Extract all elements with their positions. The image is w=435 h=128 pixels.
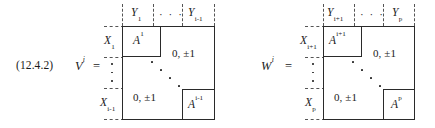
matrix-w-guide-h2 [305, 88, 325, 89]
matrix-v-row-label-dots [110, 63, 114, 82]
matrix-w-col-label-dots: · · · [360, 9, 385, 20]
matrix-w-block-ap-sup: p [398, 94, 402, 102]
matrix-w-guide-h3 [305, 119, 325, 120]
matrix-v-diagonal-dots [150, 60, 186, 90]
matrix-w-row-label-2: Xp [305, 97, 316, 111]
matrix-v-block-a1-base: A [133, 34, 140, 46]
matrix-w-lhs-superscript: i [272, 55, 274, 64]
matrix-w-lhs: Wi [261, 59, 274, 73]
matrix-w-block-ai1-base: A [329, 34, 336, 46]
matrix-w-row-label-2-sub: p [312, 105, 316, 113]
matrix-v-row-label-0-sub: 1 [111, 43, 115, 51]
matrix-v-guide-h3 [104, 119, 124, 120]
matrix-v-col-label-0-base: Y [131, 6, 137, 18]
matrix-w-block-ai1-label: Ai+1 [329, 34, 346, 46]
matrix-w-row-label-0-base: X [300, 34, 307, 46]
matrix-w-block-ai1-sup: i+1 [336, 30, 346, 38]
matrix-w-lhs-symbol: W [261, 59, 271, 73]
matrix-w-row-label-0-sub: i+1 [307, 43, 317, 51]
matrix-w-equals: = [285, 60, 292, 73]
matrix-w-col-label-2-sub: p [399, 15, 403, 23]
matrix-v-row-label-2-sub: i-1 [107, 105, 115, 113]
matrix-v-block-ai1-label: Ai-1 [188, 98, 203, 110]
matrix-v-block-ai1-base: A [188, 98, 195, 110]
matrix-w-block-ap-base: A [391, 98, 398, 110]
matrix-v-lhs-symbol: V [75, 59, 83, 73]
matrix-v-col-label-2-sub: i-1 [195, 15, 203, 23]
matrix-v-offdiag-lower: 0, ±1 [133, 92, 156, 103]
matrix-v-col-label-2-base: Y [188, 6, 194, 18]
matrix-w-col-label-2: Yp [392, 7, 402, 21]
matrix-v-guide-h2 [104, 88, 124, 89]
matrix-w-guide-v0 [323, 4, 324, 26]
matrix-v-row-label-2-base: X [100, 96, 107, 108]
matrix-v-guide-v2 [182, 4, 183, 26]
matrix-w-diagonal-dots [351, 60, 387, 90]
matrix-v-guide-v1 [153, 4, 154, 26]
matrix-w-col-label-0-base: Y [327, 6, 333, 18]
matrix-v-col-label-2: Yi-1 [188, 7, 202, 21]
matrix-w-guide-v3 [414, 4, 415, 26]
matrix-w-col-label-0: Yi+1 [327, 7, 343, 21]
matrix-w-col-label-0-sub: i+1 [334, 15, 344, 23]
matrix-v-guide-h1 [104, 57, 124, 58]
matrix-v-guide-v3 [214, 4, 215, 26]
matrix-w-block-ap-label: Ap [391, 98, 402, 110]
equation-number: (12.4.2) [16, 60, 53, 72]
matrix-w-guide-h0 [305, 26, 325, 27]
matrix-v-lhs: Vi [75, 59, 85, 73]
matrix-v-block-a1-label: A1 [133, 34, 144, 46]
matrix-v-row-label-2: Xi-1 [100, 97, 115, 111]
matrix-v-guide-v0 [122, 4, 123, 26]
matrix-v-col-label-0: Y1 [131, 7, 141, 21]
matrix-w-offdiag-lower: 0, ±1 [334, 92, 357, 103]
matrix-v-offdiag-upper: 0, ±1 [172, 48, 195, 59]
matrix-w-row-label-dots [311, 63, 315, 82]
matrix-v-row-label-0: X1 [104, 35, 115, 49]
matrix-v-equals: = [93, 60, 100, 73]
matrix-v-guide-h0 [104, 26, 124, 27]
matrix-v-block-ai1-sup: i-1 [195, 94, 203, 102]
matrix-v-col-label-0-sub: 1 [138, 15, 142, 23]
matrix-w-guide-h1 [305, 57, 325, 58]
matrix-w-row-label-2-base: X [305, 96, 312, 108]
matrix-w-guide-v1 [354, 4, 355, 26]
matrix-w-guide-v2 [383, 4, 384, 26]
matrix-w-col-label-2-base: Y [392, 6, 398, 18]
matrix-v-col-label-dots: · · · [159, 9, 184, 20]
matrix-w-offdiag-upper: 0, ±1 [373, 48, 396, 59]
figure-canvas: (12.4.2) Vi = Y1 · · · Yi-1 X1 [0, 0, 435, 128]
matrix-v-row-label-0-base: X [104, 34, 111, 46]
matrix-v-lhs-superscript: i [83, 55, 85, 64]
matrix-w-row-label-0: Xi+1 [300, 35, 317, 49]
matrix-v-block-a1-sup: 1 [140, 30, 144, 38]
